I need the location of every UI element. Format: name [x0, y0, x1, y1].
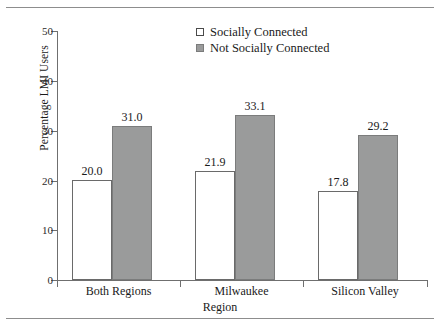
x-category-label-milwaukee: Milwaukee: [180, 284, 303, 299]
bar-value-label: 29.2: [368, 119, 389, 134]
bar-not-socially-connected[interactable]: 33.1: [235, 115, 275, 280]
bar-value-label: 20.0: [82, 164, 103, 179]
bar-value-label: 21.9: [205, 155, 226, 170]
bar-value-label: 31.0: [122, 110, 143, 125]
x-tick-3: [427, 281, 428, 287]
figure-container: Socially Connected Not Socially Connecte…: [0, 0, 440, 331]
bar-value-label: 33.1: [245, 99, 266, 114]
bar-socially-connected[interactable]: 21.9: [195, 171, 235, 280]
bar-group-both-regions: 20.0 31.0: [57, 31, 180, 280]
bar-not-socially-connected[interactable]: 31.0: [112, 126, 152, 280]
plot-area: 20.0 31.0 21.9 33.1 17.8 29.2: [57, 31, 428, 280]
bar-not-socially-connected[interactable]: 29.2: [358, 135, 398, 280]
x-category-label-silicon-valley: Silicon Valley: [303, 284, 427, 299]
y-tick-label-10: 10: [42, 224, 53, 236]
bar-socially-connected[interactable]: 17.8: [318, 191, 358, 280]
x-category-label-both-regions: Both Regions: [57, 284, 180, 299]
bar-socially-connected[interactable]: 20.0: [72, 180, 112, 280]
bar-value-label: 17.8: [328, 175, 349, 190]
bar-group-milwaukee: 21.9 33.1: [180, 31, 303, 280]
bar-group-silicon-valley: 17.8 29.2: [303, 31, 427, 280]
y-axis-title: Percentage LMI Users: [38, 18, 50, 178]
x-axis-title: Region: [0, 300, 440, 315]
x-axis-line: [57, 280, 428, 281]
figure-top-rule: [6, 7, 434, 8]
y-tick-label-0: 0: [48, 274, 54, 286]
figure-bottom-rule: [6, 318, 434, 319]
